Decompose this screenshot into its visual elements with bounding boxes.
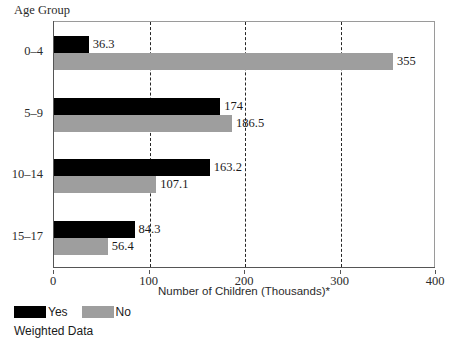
bar-yes	[54, 98, 220, 115]
bar-value-label: 56.4	[112, 238, 134, 255]
bar-no	[54, 176, 156, 193]
legend-swatch-no	[82, 306, 114, 318]
bar-value-label: 186.5	[236, 115, 264, 132]
legend-label-no: No	[116, 305, 131, 319]
bar-value-label: 355	[397, 53, 416, 70]
bar-value-label: 84.3	[139, 221, 161, 238]
category-axis-labels: 0–45–910–1415–17	[0, 21, 48, 268]
category-label: 15–17	[12, 229, 43, 244]
bar-yes	[54, 221, 135, 238]
bar-value-label: 36.3	[93, 36, 115, 53]
bar-no	[54, 238, 108, 255]
bar-value-label: 174	[224, 98, 243, 115]
bar-no	[54, 53, 393, 70]
plot-area: 36.3355174186.5163.2107.184.356.4	[53, 21, 435, 268]
x-axis-title: Number of Children (Thousands)*	[53, 285, 435, 297]
legend-swatch-yes	[14, 306, 46, 318]
bar-yes	[54, 36, 89, 53]
bar-no	[54, 115, 232, 132]
legend-entries: Yes No	[14, 305, 214, 319]
legend-note: Weighted Data	[14, 324, 214, 338]
bar-value-label: 163.2	[214, 159, 242, 176]
category-label: 10–14	[12, 167, 43, 182]
category-label: 5–9	[24, 106, 43, 121]
chart-legend: Yes No Weighted Data	[14, 305, 214, 338]
bar-value-label: 107.1	[160, 176, 188, 193]
chart-figure: Age Group 0–45–910–1415–17 36.3355174186…	[0, 0, 454, 339]
bar-yes	[54, 159, 210, 176]
category-label: 0–4	[24, 44, 43, 59]
y-axis-caption: Age Group	[14, 3, 70, 18]
legend-label-yes: Yes	[48, 305, 68, 319]
